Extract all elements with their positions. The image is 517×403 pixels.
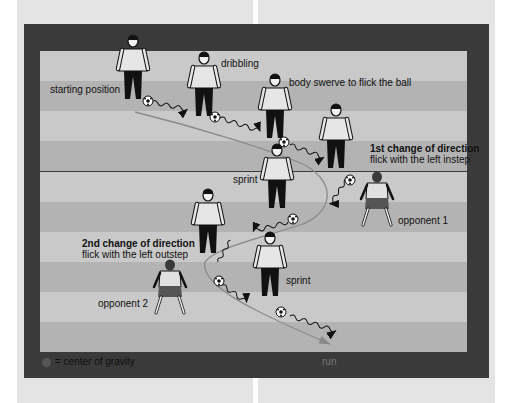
label-first-change-sub: flick with the left instep: [370, 154, 470, 166]
opponent-2: [154, 260, 186, 314]
label-sprint-2: sprint: [286, 275, 310, 287]
dribble-arrow: [221, 283, 248, 303]
player-dribbling: [189, 52, 219, 116]
dribble-arrow: [289, 143, 324, 159]
dribble-arrow: [217, 240, 232, 263]
ball-icon: [276, 307, 286, 317]
opponent-1: [361, 172, 393, 226]
ball-icon: [345, 175, 355, 185]
legend: = center of gravity: [42, 356, 135, 368]
ball-icon: [143, 96, 153, 106]
dribble-arrow: [219, 116, 260, 133]
label-sprint-1: sprint: [233, 174, 257, 186]
ball-icon: [214, 276, 224, 286]
label-second-change-sub: flick with the left outstep: [82, 249, 188, 261]
player-body-swerve: [260, 74, 290, 138]
ball-icon: [210, 112, 220, 122]
center-of-gravity-icon: [42, 358, 51, 367]
label-body-swerve: body swerve to flick the ball: [289, 77, 411, 89]
label-opponent-2: opponent 2: [98, 298, 148, 310]
label-starting-position: starting position: [50, 84, 120, 96]
player-starting-position: [118, 35, 148, 99]
running-path-line: [135, 112, 330, 344]
player-sprint-2: [255, 232, 285, 296]
dribble-arrow: [152, 100, 188, 111]
player-second-change: [193, 189, 223, 253]
player-first-change: [321, 104, 351, 168]
label-opponent-1: opponent 1: [398, 215, 448, 227]
dribble-arrow: [253, 220, 289, 233]
ball-icon: [288, 214, 298, 224]
player-sprint-1: [262, 144, 292, 208]
legend-text: = center of gravity: [55, 356, 135, 368]
label-run: run: [322, 356, 336, 367]
label-dribbling: dribbling: [221, 58, 259, 70]
